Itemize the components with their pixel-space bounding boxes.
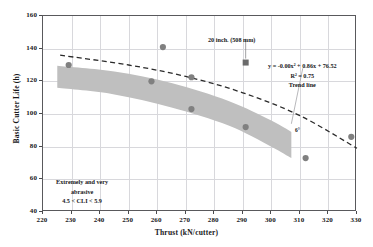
data-point-circle	[348, 134, 354, 140]
x-tick-label: 280	[198, 216, 228, 224]
x-tick-label: 240	[84, 216, 114, 224]
x-tick-label: 270	[170, 216, 200, 224]
data-point-circle	[188, 106, 194, 112]
x-tick-label: 220	[27, 216, 57, 224]
abrasive-line-1: Extremely and very	[56, 177, 108, 187]
regression-equation-text: y = -0.00x² + 0.86x + 76.52	[268, 61, 337, 71]
data-point-circle	[160, 44, 166, 50]
regression-equation-block: y = -0.00x² + 0.86x + 76.52 R² = 0.75 Tr…	[268, 61, 337, 90]
x-tick-label: 230	[56, 216, 86, 224]
y-tick-label: 160	[11, 11, 37, 19]
angle-label: 6°	[295, 126, 300, 134]
y-tick-label: 60	[11, 174, 37, 182]
y-axis-title: Basic Cutter Life (h)	[12, 44, 21, 174]
r-squared-text: R² = 0.75	[268, 71, 337, 81]
x-tick-label: 330	[341, 216, 371, 224]
data-point-circle	[243, 124, 249, 130]
data-point-square	[243, 60, 249, 66]
abrasive-range-band	[57, 66, 291, 158]
x-tick-label: 260	[141, 216, 171, 224]
x-tick-label: 310	[284, 216, 314, 224]
x-tick-label: 290	[227, 216, 257, 224]
trend-line-label: Trend line	[268, 80, 337, 90]
cutter-size-label: 20 inch. (508 mm)	[208, 35, 255, 44]
x-tick-label: 250	[113, 216, 143, 224]
chart-root: 406080100120140160 220230240250260270280…	[0, 0, 373, 247]
data-point-circle	[188, 74, 194, 80]
data-point-circle	[148, 78, 154, 84]
x-tick-label: 300	[255, 216, 285, 224]
x-tick-label: 320	[312, 216, 342, 224]
abrasive-line-2: abrasive	[56, 187, 108, 197]
data-point-circle	[303, 155, 309, 161]
x-axis-title: Thrust (kN/cutter)	[0, 228, 373, 237]
abrasive-line-3: 4.5 < CLI < 5.9	[56, 196, 108, 206]
y-tick-label: 40	[11, 207, 37, 215]
data-point-circle	[66, 62, 72, 68]
abrasive-class-label: Extremely and very abrasive 4.5 < CLI < …	[56, 177, 108, 206]
